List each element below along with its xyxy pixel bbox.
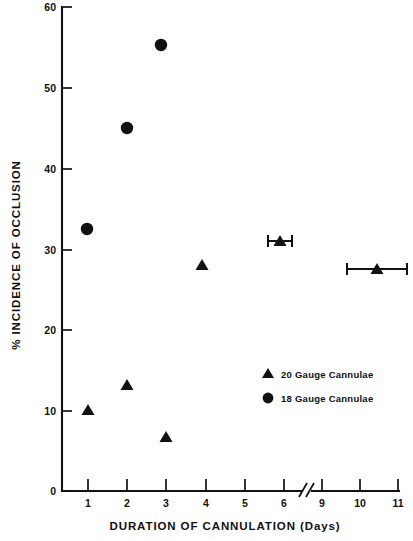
y-tick-label-0: 0: [50, 485, 56, 497]
x-tick-label-9: 9: [319, 497, 325, 509]
y-axis-ticks: [62, 7, 72, 491]
y-tick-label-50: 50: [44, 82, 56, 94]
data-point-triangle: [82, 404, 95, 415]
y-tick-label-40: 40: [44, 163, 56, 175]
series-18-gauge-cannulae: [81, 39, 167, 235]
x-tick-label-5: 5: [242, 497, 248, 509]
data-point-circle: [81, 223, 93, 235]
data-point-with-error-bar: [347, 263, 407, 275]
chart-figure: 60 50 40 30 20 10 0 1 2 3 4 5 6 9 10 11 …: [0, 0, 413, 541]
data-point-triangle: [160, 431, 173, 442]
x-tick-label-6: 6: [281, 497, 287, 509]
y-axis-title: % INCIDENCE OF OCCLUSION: [10, 160, 22, 350]
x-tick-label-4: 4: [203, 497, 209, 509]
y-tick-label-10: 10: [44, 405, 56, 417]
y-tick-label-20: 20: [44, 324, 56, 336]
legend-label-18-gauge: 18 Gauge Cannulae: [281, 393, 373, 404]
y-tick-label-60: 60: [44, 1, 56, 13]
legend-label-20-gauge: 20 Gauge Cannulae: [281, 369, 373, 380]
data-point-circle: [121, 122, 133, 134]
x-tick-label-2: 2: [124, 497, 130, 509]
legend-entry-18-gauge: 18 Gauge Cannulae: [263, 393, 374, 404]
legend-triangle-icon: [262, 368, 274, 378]
series-20-gauge-cannulae: [82, 235, 408, 442]
data-point-circle: [155, 39, 167, 51]
y-tick-label-30: 30: [44, 244, 56, 256]
data-point-triangle: [121, 379, 134, 390]
data-point-with-error-bar: [268, 235, 292, 247]
x-axis-title: DURATION OF CANNULATION (Days): [109, 520, 340, 532]
legend-circle-icon: [263, 393, 274, 404]
x-tick-label-11: 11: [392, 497, 403, 509]
x-tick-label-10: 10: [354, 497, 366, 509]
data-point-triangle: [196, 259, 209, 270]
scatter-plot: 60 50 40 30 20 10 0 1 2 3 4 5 6 9 10 11 …: [0, 0, 413, 541]
chart-legend: 20 Gauge Cannulae 18 Gauge Cannulae: [262, 368, 373, 404]
legend-entry-20-gauge: 20 Gauge Cannulae: [262, 368, 373, 380]
x-tick-label-1: 1: [85, 497, 91, 509]
x-tick-label-3: 3: [163, 497, 169, 509]
x-axis-ticks: [88, 479, 398, 491]
